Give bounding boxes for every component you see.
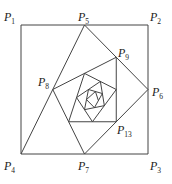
- label-p6: P6: [151, 85, 163, 101]
- label-p1: P1: [3, 10, 15, 26]
- spiral-diagram: P1P2P3P4P5P6P7P8P9P13: [0, 0, 172, 184]
- label-p8: P8: [37, 75, 49, 91]
- label-p9: P9: [117, 46, 129, 62]
- label-p3: P3: [149, 159, 161, 175]
- label-p13: P13: [116, 123, 132, 139]
- label-p2: P2: [149, 10, 161, 26]
- label-p5: P5: [77, 10, 89, 26]
- label-p4: P4: [3, 159, 15, 175]
- label-p7: P7: [77, 159, 89, 175]
